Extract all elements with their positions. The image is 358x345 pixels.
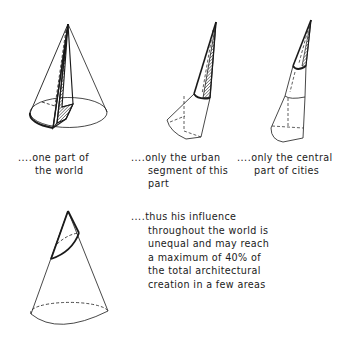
caption-world: ....one part ofthe world [18, 152, 89, 178]
caption-line: thus his influence [145, 211, 236, 222]
caption-line: unequal and may reach [131, 237, 269, 251]
cone-central [271, 20, 311, 142]
caption-line: creation in a few areas [131, 278, 269, 292]
caption-line: segment of this [131, 165, 228, 178]
caption-influence: ....thus his influencethroughout the wor… [131, 210, 269, 292]
caption-urban: ....only the urbansegment of thispart [131, 152, 228, 190]
cone-world [30, 24, 107, 128]
caption-line: a maximum of 40% of [131, 251, 269, 265]
caption-line: part of cities [237, 165, 332, 178]
caption-prefix: .... [18, 152, 32, 163]
caption-prefix: .... [131, 211, 145, 222]
caption-prefix: .... [131, 152, 145, 163]
cone-urban [167, 22, 216, 139]
caption-line: only the central [251, 152, 332, 163]
caption-line: only the urban [145, 152, 220, 163]
cone-influence [31, 211, 108, 324]
caption-line: throughout the world is [131, 224, 269, 238]
caption-line: the total architectural [131, 264, 269, 278]
caption-prefix: .... [237, 152, 251, 163]
caption-line: part [131, 178, 228, 191]
caption-central: ....only the centralpart of cities [237, 152, 332, 178]
caption-line: the world [18, 165, 89, 178]
caption-line: one part of [32, 152, 89, 163]
